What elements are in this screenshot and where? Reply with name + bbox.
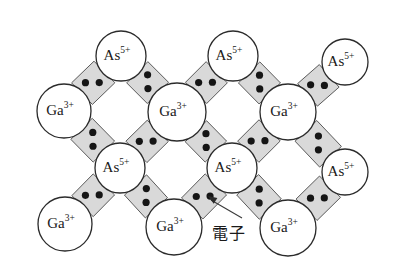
lattice-diagram: As5+As5+As5+Ga3+Ga3+Ga3+As5+As5+As5+Ga3+… — [0, 0, 394, 271]
electron-dot — [256, 85, 263, 92]
atom-as-r3-c1: As5+ — [95, 143, 145, 193]
electron-dot — [82, 192, 89, 199]
electron-dot — [144, 85, 151, 92]
atom-ga-r4-c2: Ga3+ — [260, 200, 316, 256]
electron-dot — [256, 186, 263, 193]
gallium-ion-circle — [37, 84, 91, 138]
electron-dot — [321, 194, 328, 201]
gallium-ion-circle — [38, 197, 92, 251]
electron-dot — [193, 193, 200, 200]
atom-ga-r2-c2: Ga3+ — [260, 84, 316, 140]
atom-ga-r2-c0: Ga3+ — [37, 84, 91, 138]
electron-dot — [96, 79, 103, 86]
electron-dot — [143, 185, 150, 192]
gallium-ion-circle — [148, 83, 206, 141]
electron-dot — [203, 144, 210, 151]
bond-layer — [71, 61, 342, 220]
electron-dot — [144, 71, 151, 78]
atom-ga-r4-c1: Ga3+ — [146, 199, 202, 255]
electron-dot — [315, 146, 322, 153]
electron-dot — [321, 82, 328, 89]
electron-dot — [307, 81, 314, 88]
gallium-ion-circle — [146, 199, 202, 255]
electron-dot — [248, 137, 255, 144]
electron-dot — [256, 72, 263, 79]
electron-dot — [256, 199, 263, 206]
electron-dot — [149, 138, 156, 145]
electron-dot — [96, 191, 103, 198]
electron-dot — [142, 199, 149, 206]
electron-dot — [209, 79, 216, 86]
electron-dot — [136, 138, 143, 145]
atom-as-r1-c3: As5+ — [322, 39, 368, 85]
atom-as-r3-c3: As5+ — [322, 149, 368, 195]
figure-canvas: As5+As5+As5+Ga3+Ga3+Ga3+As5+As5+As5+Ga3+… — [0, 0, 394, 271]
electron-dot — [261, 137, 268, 144]
atom-as-r1-c1: As5+ — [96, 31, 146, 81]
electron-label: 電子 — [212, 220, 246, 244]
electron-dot — [89, 129, 96, 136]
electron-dot — [315, 132, 322, 139]
electron-dot — [307, 195, 314, 202]
gallium-ion-circle — [260, 200, 316, 256]
gallium-ion-circle — [260, 84, 316, 140]
atom-ga-r2-c1: Ga3+ — [148, 83, 206, 141]
electron-dot — [195, 79, 202, 86]
callout-leader-line — [211, 200, 242, 218]
atom-as-r3-c2: As5+ — [207, 143, 257, 193]
electron-dot — [89, 143, 96, 150]
electron-dot — [82, 79, 89, 86]
atom-as-r1-c2: As5+ — [208, 31, 258, 81]
atom-ga-r4-c0: Ga3+ — [38, 197, 92, 251]
electron-dot — [202, 130, 209, 137]
